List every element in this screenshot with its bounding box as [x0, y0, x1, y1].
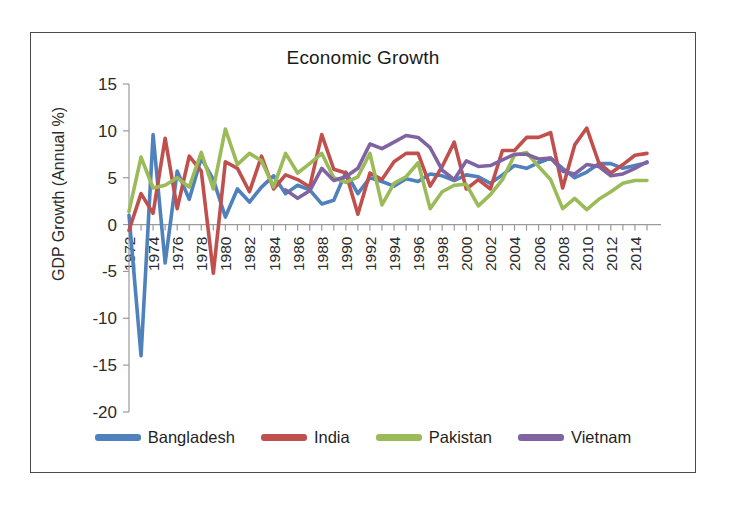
legend-label: Vietnam: [571, 428, 631, 447]
x-tick-label: 1992: [362, 237, 379, 271]
legend-label: Bangladesh: [148, 428, 235, 447]
x-tick-label: 1996: [410, 237, 427, 271]
x-tick-label: 1990: [338, 236, 355, 271]
x-tick-label: 1998: [434, 237, 451, 271]
legend-item-pakistan[interactable]: Pakistan: [376, 428, 492, 447]
legend-item-vietnam[interactable]: Vietnam: [518, 428, 631, 447]
x-tick-label: 1982: [241, 237, 258, 271]
legend-item-india[interactable]: India: [261, 428, 350, 447]
y-tick-label: 15: [98, 75, 117, 94]
chart-legend: BangladeshIndiaPakistanVietnam: [31, 428, 695, 447]
legend-swatch-icon: [376, 434, 422, 441]
x-tick-label: 1994: [386, 236, 403, 271]
y-tick-label: -15: [92, 356, 117, 375]
y-tick-label: 10: [98, 122, 117, 141]
legend-swatch-icon: [95, 434, 141, 441]
x-tick-label: 1988: [314, 237, 331, 271]
legend-swatch-icon: [261, 434, 307, 441]
x-tick-label: 1980: [217, 236, 234, 271]
x-tick-label: 1978: [193, 237, 210, 271]
x-tick-label: 2014: [627, 236, 644, 271]
y-tick-label: 5: [108, 169, 117, 188]
x-tick-label: 1986: [290, 237, 307, 271]
x-axis-ticks: 1972197419761978198019821984198619881990…: [121, 225, 647, 271]
legend-item-bangladesh[interactable]: Bangladesh: [95, 428, 235, 447]
y-tick-label: -5: [102, 262, 117, 281]
chart-plot-area: 151050-5-10-15-20 1972197419761978198019…: [31, 33, 697, 474]
x-tick-label: 2000: [458, 236, 475, 271]
chart-figure-frame: Economic Growth GDP Growth (Annual %) 15…: [30, 32, 696, 473]
x-tick-label: 2012: [603, 237, 620, 271]
legend-label: Pakistan: [429, 428, 492, 447]
x-tick-label: 2002: [482, 237, 499, 271]
x-tick-label: 2008: [555, 237, 572, 271]
legend-label: India: [314, 428, 350, 447]
y-tick-label: 0: [108, 216, 117, 235]
x-tick-label: 2010: [579, 236, 596, 271]
x-tick-label: 1976: [169, 237, 186, 271]
y-tick-label: -10: [92, 309, 117, 328]
x-tick-label: 1984: [266, 236, 283, 271]
x-tick-label: 2006: [531, 237, 548, 271]
y-tick-label: -20: [92, 403, 117, 422]
x-tick-label: 2004: [506, 236, 523, 271]
legend-swatch-icon: [518, 434, 564, 441]
